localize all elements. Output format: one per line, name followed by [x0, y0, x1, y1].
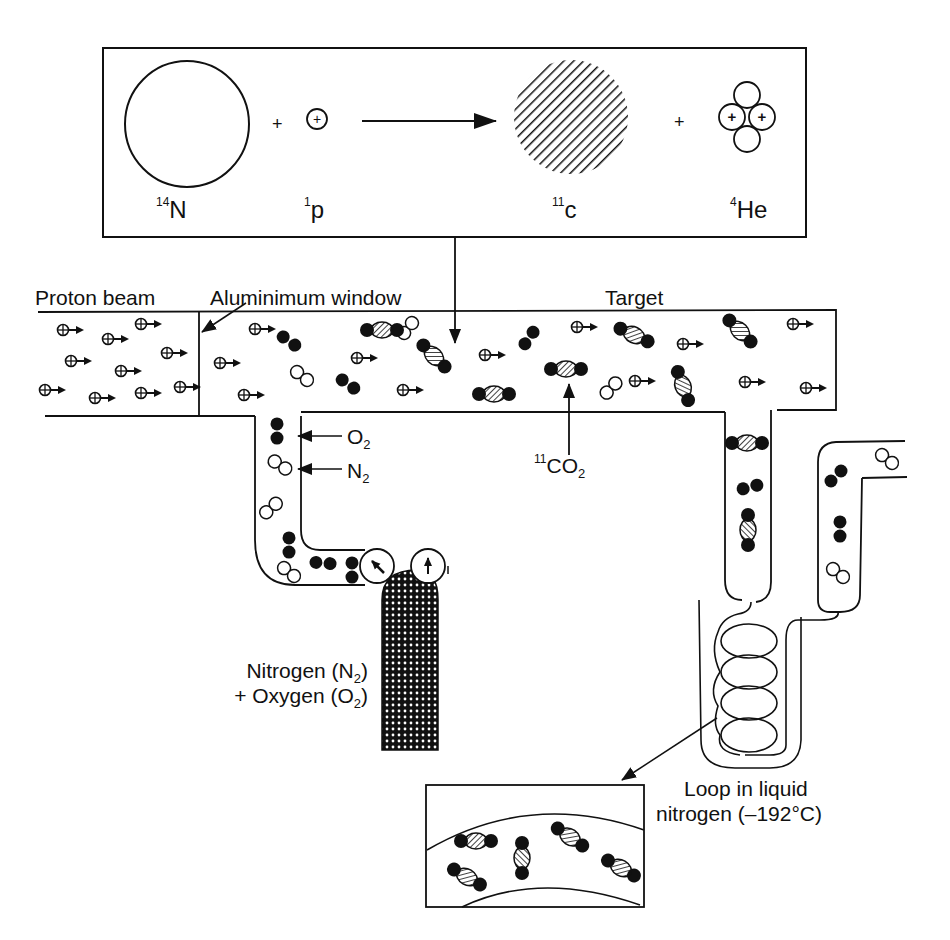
- nitrogen14-label: 14N: [156, 198, 187, 222]
- aluminium-window-label: Aluminimum window: [210, 287, 401, 308]
- proton-beam-label: Proton beam: [35, 287, 155, 308]
- co2-label: 11CO2: [534, 455, 585, 476]
- proton-icon: +: [307, 109, 327, 129]
- gas-supply-label-line1: Nitrogen (N2): [200, 660, 368, 681]
- helium4-label: 4He: [730, 198, 767, 222]
- inset-magnified-loop: [426, 785, 644, 907]
- loop-label-line2: nitrogen (–192°C): [656, 803, 822, 824]
- gas-cylinder: [360, 549, 448, 750]
- svg-text:+: +: [758, 108, 767, 125]
- svg-text:+: +: [728, 108, 737, 125]
- nitrogen-nucleus-icon: [125, 61, 249, 187]
- carbon11-nucleus-icon: [514, 60, 628, 174]
- carbon11-label: 11c: [552, 198, 576, 222]
- target-gas-molecules: [276, 310, 762, 410]
- gas-supply-label-line2: + Oxygen (O2): [190, 685, 368, 706]
- liquid-nitrogen-dewar: [699, 600, 838, 768]
- n2-label: N2: [347, 460, 369, 481]
- collection-tube-molecules: [725, 435, 902, 585]
- reaction-equation-box: + + + + +: [103, 48, 806, 237]
- svg-text:+: +: [313, 111, 321, 127]
- o2-label: O2: [347, 426, 371, 447]
- svg-text:+: +: [674, 112, 685, 132]
- target-label: Target: [605, 287, 663, 308]
- svg-text:+: +: [272, 114, 283, 134]
- loop-label-line1: Loop in liquid: [684, 778, 808, 799]
- proton-label: 1p: [304, 198, 324, 222]
